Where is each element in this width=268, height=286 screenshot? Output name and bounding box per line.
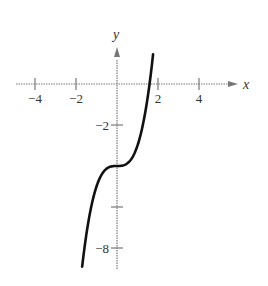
x-tick-label: −4 xyxy=(28,91,42,106)
y-axis-arrow-icon xyxy=(114,47,120,57)
y-ticks: −2−8 xyxy=(95,118,123,256)
function-curve xyxy=(82,54,153,266)
x-ticks: −4−224 xyxy=(28,78,203,106)
y-tick-label: −8 xyxy=(95,241,109,256)
x-tick-label: −2 xyxy=(69,91,83,106)
x-axis-arrow-icon xyxy=(228,81,238,87)
y-tick-label: −2 xyxy=(95,118,109,133)
x-axis-label: x xyxy=(242,77,250,92)
x-tick-label: 4 xyxy=(196,91,203,106)
x-tick-label: 2 xyxy=(155,91,162,106)
plot-area: −4−224 −2−8 x y xyxy=(0,0,268,286)
y-axis-label: y xyxy=(111,27,120,42)
